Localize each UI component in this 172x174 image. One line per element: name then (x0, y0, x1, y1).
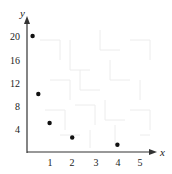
scatter-chart: y x 1 2 3 4 5 4 8 12 16 20 (0, 0, 172, 174)
x-tick-label: 1 (48, 157, 53, 168)
x-tick-label: 3 (94, 157, 99, 168)
x-tick-label: 2 (70, 157, 75, 168)
x-tick-labels: 1 2 3 4 5 (48, 157, 143, 168)
background-pattern (40, 30, 150, 148)
y-tick-labels: 4 8 12 16 20 (10, 31, 20, 135)
data-point (36, 92, 40, 96)
x-tick-label: 4 (116, 157, 121, 168)
data-point (115, 143, 119, 147)
y-tick-label: 12 (10, 78, 20, 89)
y-tick-label: 20 (10, 31, 20, 42)
y-axis-label: y (19, 7, 25, 19)
data-points (30, 34, 119, 147)
x-axis-label: x (159, 146, 165, 158)
data-point (70, 135, 74, 139)
y-tick-label: 16 (10, 55, 20, 66)
x-tick-label: 5 (138, 157, 143, 168)
y-tick-label: 4 (15, 124, 20, 135)
data-point (47, 121, 51, 125)
y-tick-label: 8 (15, 101, 20, 112)
y-axis-arrow-icon (24, 16, 30, 24)
data-point (30, 34, 34, 38)
x-axis-arrow-icon (149, 149, 157, 155)
